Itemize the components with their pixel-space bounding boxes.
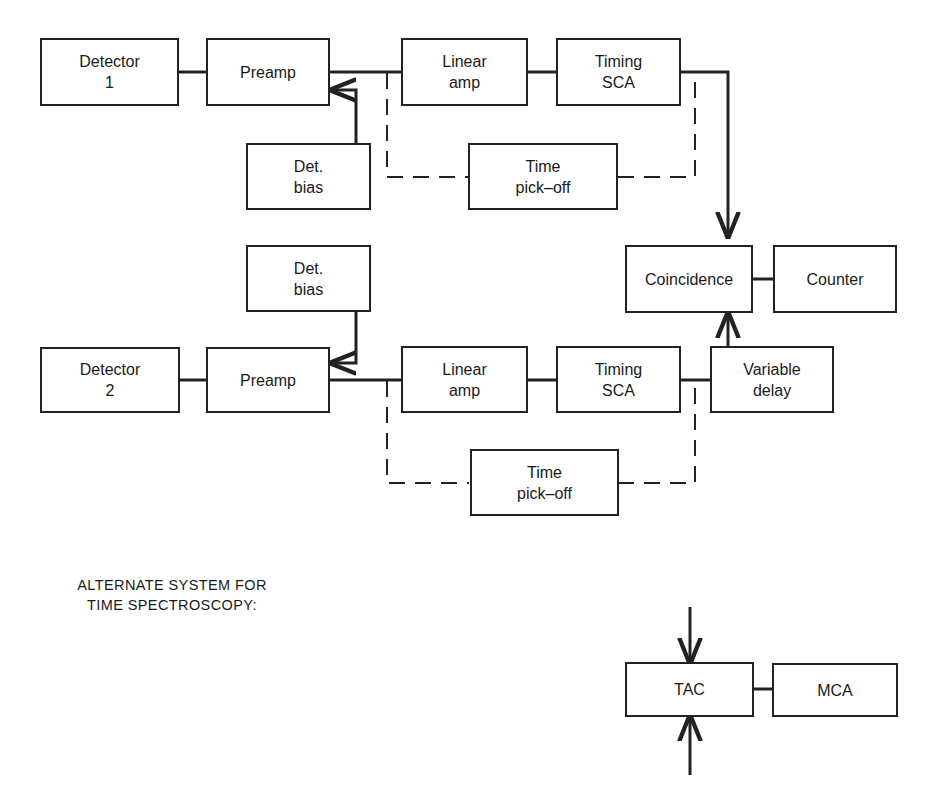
box-detector-1: Detector 1	[40, 38, 179, 106]
arrow-bias1-preamp1	[332, 90, 356, 143]
box-linear-amp-2: Linear amp	[401, 346, 528, 413]
box-preamp-2: Preamp	[206, 347, 330, 413]
box-tac: TAC	[625, 662, 754, 717]
box-variable-delay: Variable delay	[710, 346, 834, 413]
box-time-pickoff-1: Time pick–off	[468, 143, 618, 210]
box-detector-2: Detector 2	[40, 347, 180, 413]
box-time-pickoff-2: Time pick–off	[470, 449, 619, 516]
arrow-sca1-coincidence	[679, 72, 728, 236]
caption-alternate-system: ALTERNATE SYSTEM FOR TIME SPECTROSCOPY:	[44, 575, 300, 615]
box-timing-sca-1: Timing SCA	[556, 38, 681, 106]
box-timing-sca-2: Timing SCA	[556, 346, 681, 413]
box-coincidence: Coincidence	[625, 245, 753, 313]
box-mca: MCA	[772, 663, 898, 717]
arrow-bias2-preamp2	[332, 310, 356, 363]
box-det-bias-2: Det. bias	[246, 245, 371, 312]
box-preamp-1: Preamp	[206, 38, 330, 106]
box-linear-amp-1: Linear amp	[401, 38, 528, 106]
box-counter: Counter	[773, 245, 897, 313]
box-det-bias-1: Det. bias	[246, 143, 371, 210]
